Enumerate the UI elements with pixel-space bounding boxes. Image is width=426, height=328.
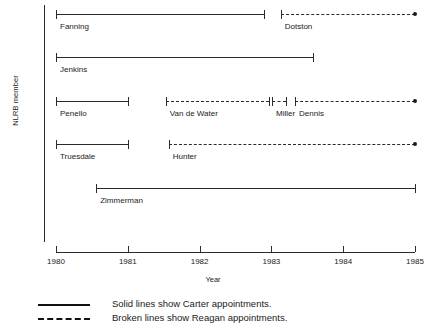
timeline-segment [169,144,415,145]
segment-start-cap [166,97,167,106]
timeline-segment [295,101,415,102]
segment-end-cap [269,97,270,106]
x-axis-tick-label: 1981 [108,257,148,266]
timeline-segment [281,14,415,15]
segment-label: Van de Water [170,109,218,118]
segment-start-cap [56,10,57,19]
segment-end-cap [128,97,129,106]
y-axis-title: NLRB member [11,61,20,141]
legend-solid-line-icon [38,304,90,306]
segment-end-cap [286,97,287,106]
legend-label: Broken lines show Reagan appointments. [112,312,287,323]
segment-start-cap [272,97,273,106]
segment-label: Hunter [173,152,197,161]
timeline-segment [166,101,269,102]
segment-end-cap [264,10,265,19]
timeline-chart: NLRB member FanningDotstonJenkinsPenello… [0,0,426,328]
segment-start-cap [96,184,97,193]
timeline-segment [56,101,128,102]
segment-start-cap [281,10,282,19]
legend-item: Broken lines show Reagan appointments. [0,312,426,326]
x-axis-tick [271,246,272,252]
x-axis-tick [56,246,57,252]
x-axis-tick-label: 1984 [323,257,363,266]
segment-end-cap [415,184,416,193]
segment-label: Dennis [299,109,324,118]
x-axis-tick-label: 1983 [251,257,291,266]
segment-start-cap [56,53,57,62]
segment-end-cap [128,140,129,149]
x-axis-tick-label: 1980 [36,257,76,266]
segment-end-dot [413,142,417,146]
legend-broken-line-icon [38,318,90,320]
x-axis-tick [415,246,416,252]
timeline-segment [56,144,128,145]
timeline-segment [56,14,264,15]
legend-item: Solid lines show Carter appointments. [0,298,426,312]
y-axis-line [44,5,45,242]
x-axis-title: Year [0,275,426,284]
segment-end-cap [313,53,314,62]
segment-label: Fanning [60,22,89,31]
timeline-segment [96,188,415,189]
segment-end-dot [413,99,417,103]
segment-start-cap [56,140,57,149]
segment-label: Miller [276,109,295,118]
x-axis-tick [128,246,129,252]
segment-label: Jenkins [60,65,87,74]
timeline-segment [56,57,313,58]
legend-label: Solid lines show Carter appointments. [112,298,271,309]
segment-start-cap [56,97,57,106]
segment-label: Zimmerman [100,196,143,205]
x-axis-tick-label: 1982 [180,257,220,266]
x-axis-tick [343,246,344,252]
x-axis-tick-label: 1985 [395,257,426,266]
segment-start-cap [169,140,170,149]
segment-label: Dotston [285,22,313,31]
segment-label: Truesdale [60,152,95,161]
timeline-segment [272,101,286,102]
segment-end-dot [413,12,417,16]
x-axis-line [56,252,415,253]
segment-start-cap [295,97,296,106]
x-axis-tick [200,246,201,252]
segment-label: Penello [60,109,87,118]
